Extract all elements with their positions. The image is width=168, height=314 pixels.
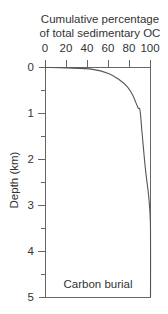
y-minor-ticks [41, 91, 46, 275]
carbon-burial-curve [46, 68, 151, 298]
y-tick-label: 5 [28, 291, 34, 303]
x-tick-label: 80 [123, 42, 136, 54]
x-tick-label: 60 [102, 42, 115, 54]
y-tick-labels: 0 1 2 3 4 5 [28, 61, 35, 303]
y-axis-label: Depth (km) [8, 151, 20, 208]
x-tick-labels: 0 20 40 60 80 100 [42, 42, 160, 54]
y-tick-label: 4 [28, 245, 35, 257]
carbon-burial-annotation: Carbon burial [63, 278, 132, 290]
y-tick-label: 3 [28, 199, 34, 211]
x-ticks [46, 60, 130, 67]
x-tick-label: 20 [60, 42, 73, 54]
x-tick-label: 40 [81, 42, 94, 54]
y-tick-label: 0 [28, 61, 34, 73]
y-tick-label: 2 [28, 153, 34, 165]
axes-frame [39, 60, 151, 298]
chart-title-line-2: of total sedimentary OC [40, 27, 161, 39]
chart-title-line-1: Cumulative percentage [41, 13, 159, 25]
x-tick-label: 0 [42, 42, 48, 54]
y-tick-label: 1 [28, 107, 34, 119]
x-tick-label: 100 [140, 42, 159, 54]
cumulative-carbon-chart: Cumulative percentage of total sedimenta… [0, 0, 168, 314]
